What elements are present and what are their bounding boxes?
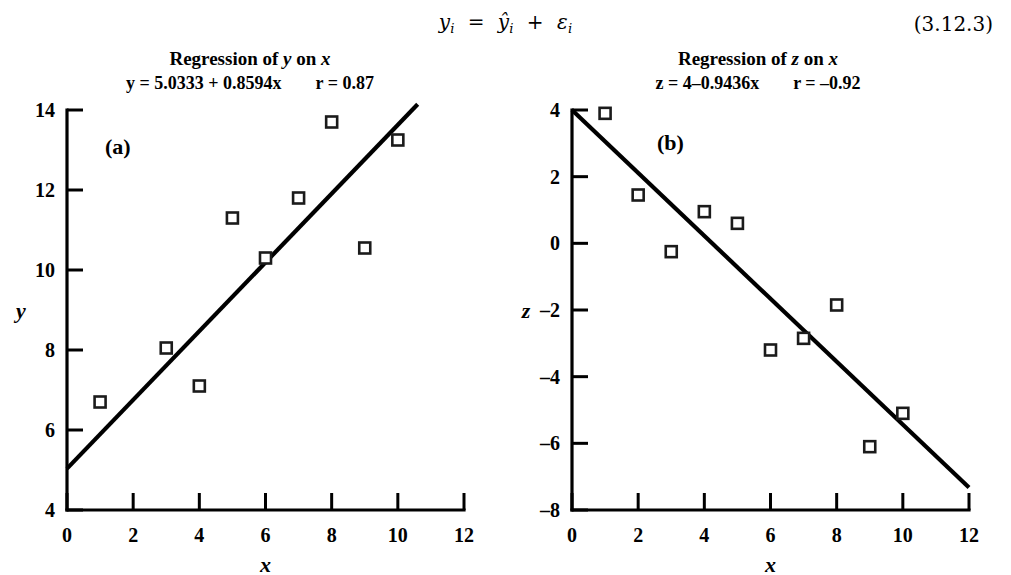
display-equation: yi = ŷi + εi: [0, 10, 1011, 36]
y-axis-tick-label: –2: [539, 299, 560, 321]
data-point-marker: [260, 253, 271, 264]
y-axis-tick-label: 12: [35, 179, 55, 201]
x-axis-tick-label: 4: [194, 524, 204, 546]
panel-b-title-suffix: on: [799, 48, 829, 69]
data-point-marker: [765, 345, 776, 356]
x-axis-tick-label: 10: [388, 524, 408, 546]
panel-a-title-var2: x: [321, 48, 331, 69]
y-axis-tick-label: 0: [550, 232, 560, 254]
data-point-marker: [227, 213, 238, 224]
data-point-marker: [666, 246, 677, 257]
y-axis-tick-label: 4: [45, 499, 55, 521]
panel-b-title: Regression of z on x: [505, 48, 1011, 70]
data-point-marker: [633, 190, 644, 201]
y-axis-tick-label: 6: [45, 419, 55, 441]
equation-number: (3.12.3): [914, 12, 993, 36]
panel-b-title-prefix: Regression of: [678, 48, 792, 69]
display-equation-row: yi = ŷi + εi (3.12.3): [0, 4, 1011, 44]
panel-a-correlation: r = 0.87: [316, 73, 374, 93]
data-point-marker: [732, 218, 743, 229]
data-point-marker: [798, 333, 809, 344]
data-point-marker: [194, 381, 205, 392]
x-axis-tick-label: 6: [261, 524, 271, 546]
panel-a-title-suffix: on: [292, 48, 322, 69]
x-axis-tick-label: 10: [893, 524, 913, 546]
data-point-marker: [831, 300, 842, 311]
x-axis-tick-label: 12: [959, 524, 979, 546]
y-axis-tick-label: 8: [45, 339, 55, 361]
y-axis-tick-label: 14: [35, 99, 55, 121]
panel-b-plot: 420–2–4–6–8024681012xz(b): [505, 92, 1011, 572]
x-axis-label: x: [764, 552, 776, 572]
x-axis-tick-label: 0: [567, 524, 577, 546]
figure-root: yi = ŷi + εi (3.12.3) Regression of y on…: [0, 0, 1011, 575]
y-axis-tick-label: 4: [550, 99, 560, 121]
x-axis-tick-label: 8: [327, 524, 337, 546]
x-axis-tick-label: 4: [699, 524, 709, 546]
y-axis-label: z: [521, 298, 531, 323]
panel-b-correlation: r = –0.92: [793, 73, 860, 93]
x-axis-label: x: [259, 552, 271, 572]
data-point-marker: [359, 243, 370, 254]
panel-letter: (a): [105, 134, 131, 159]
panel-b-equation-row: z = 4–0.9436xr = –0.92: [505, 73, 1011, 94]
y-axis-tick-label: –4: [539, 366, 560, 388]
x-axis-tick-label: 6: [766, 524, 776, 546]
data-point-marker: [95, 397, 106, 408]
data-point-marker: [864, 441, 875, 452]
data-point-marker: [293, 193, 304, 204]
x-axis-tick-label: 2: [128, 524, 138, 546]
data-point-marker: [600, 108, 611, 119]
panel-b-fit-equation: z = 4–0.9436x: [655, 73, 759, 93]
data-point-marker: [326, 117, 337, 128]
x-axis-tick-label: 8: [832, 524, 842, 546]
panel-a-equation-row: y = 5.0333 + 0.8594xr = 0.87: [0, 73, 500, 94]
regression-line: [572, 110, 969, 487]
x-axis-tick-label: 0: [62, 524, 72, 546]
x-axis-tick-label: 2: [633, 524, 643, 546]
data-point-marker: [699, 206, 710, 217]
panel-b-title-var: z: [792, 48, 799, 69]
y-axis-tick-label: –8: [539, 499, 560, 521]
data-point-marker: [161, 343, 172, 354]
y-axis-tick-label: –6: [539, 432, 560, 454]
panel-a-fit-equation: y = 5.0333 + 0.8594x: [126, 73, 282, 93]
panel-a-title-var: y: [283, 48, 291, 69]
x-axis-tick-label: 12: [454, 524, 474, 546]
panel-a-title-prefix: Regression of: [169, 48, 283, 69]
y-axis-tick-label: 10: [35, 259, 55, 281]
y-axis-tick-label: 2: [550, 166, 560, 188]
data-point-marker: [897, 408, 908, 419]
panel-letter: (b): [657, 130, 684, 155]
y-axis-label: y: [13, 298, 26, 323]
panel-a-plot: 468101214024681012xy(a): [0, 92, 500, 572]
panel-b-title-var2: x: [829, 48, 839, 69]
panel-a-title: Regression of y on x: [0, 48, 500, 70]
data-point-marker: [392, 135, 403, 146]
